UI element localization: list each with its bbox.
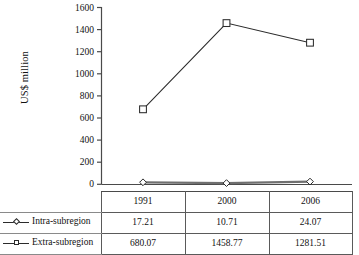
legend-label-intra-subregion: Intra-subregion xyxy=(32,217,91,227)
cell-intra-1991: 17.21 xyxy=(101,213,185,234)
line-chart: US$ million 1600 1400 1200 1000 800 600 … xyxy=(0,0,359,192)
cell-extra-1991: 680.07 xyxy=(101,234,185,255)
intra-subregion-point-2000 xyxy=(223,180,230,187)
legend-label-extra-subregion: Extra-subregion xyxy=(32,238,93,248)
extra-subregion-point-2000 xyxy=(223,20,230,27)
legend-item-intra-subregion: Intra-subregion xyxy=(0,213,101,234)
cell-intra-2000: 10.71 xyxy=(185,213,269,234)
cell-extra-2006: 1281.51 xyxy=(269,234,352,255)
legend-item-extra-subregion: Extra-subregion xyxy=(0,234,101,255)
table-row: Extra-subregion 680.07 1458.77 1281.51 xyxy=(0,234,352,255)
extra-subregion-line xyxy=(143,23,310,109)
extra-subregion-point-2006 xyxy=(307,39,314,46)
table-header-row: 1991 2000 2006 xyxy=(0,192,352,213)
table-header-2006: 2006 xyxy=(269,192,352,213)
square-marker-icon xyxy=(3,238,29,248)
data-table: 1991 2000 2006 Intra-subregion 17.21 10.… xyxy=(0,191,353,255)
table-corner-cell xyxy=(0,192,101,213)
table-header-2000: 2000 xyxy=(185,192,269,213)
table-row: Intra-subregion 17.21 10.71 24.07 xyxy=(0,213,352,234)
extra-subregion-point-1991 xyxy=(140,106,147,113)
cell-extra-2000: 1458.77 xyxy=(185,234,269,255)
series-intra-subregion xyxy=(140,178,314,186)
series-extra-subregion xyxy=(140,20,314,113)
diamond-marker-icon xyxy=(3,217,29,227)
y-axis-ticks xyxy=(97,8,102,185)
cell-intra-2006: 24.07 xyxy=(269,213,352,234)
plot-canvas xyxy=(0,0,359,192)
table-header-1991: 1991 xyxy=(101,192,185,213)
